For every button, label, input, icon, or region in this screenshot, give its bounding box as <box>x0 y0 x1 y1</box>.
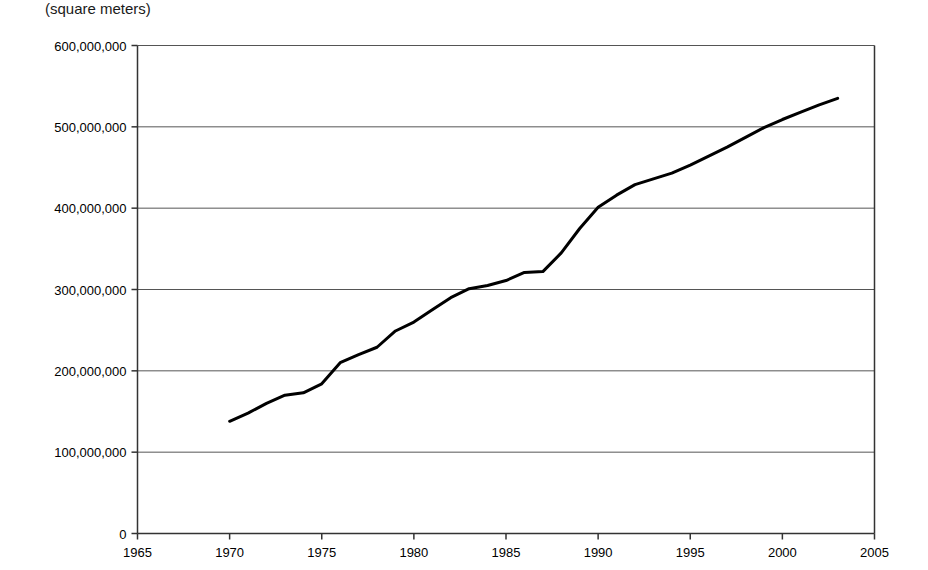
tick-marks-group <box>132 46 875 540</box>
x-tick-label: 2000 <box>752 546 812 559</box>
x-tick-label: 1975 <box>292 546 352 559</box>
x-tick-label: 1980 <box>384 546 444 559</box>
x-tick-label: 1970 <box>200 546 260 559</box>
x-tick-label: 1995 <box>660 546 720 559</box>
y-tick-label: 200,000,000 <box>54 365 126 378</box>
line-chart-plot <box>0 0 928 570</box>
x-tick-label: 1985 <box>476 546 536 559</box>
chart-container: (square meters) 0100,000,000200,000,0003… <box>0 0 928 570</box>
y-tick-label: 600,000,000 <box>54 40 126 53</box>
y-tick-label: 500,000,000 <box>54 121 126 134</box>
x-tick-label: 1990 <box>568 546 628 559</box>
data-series-line <box>230 98 838 421</box>
y-tick-label: 300,000,000 <box>54 284 126 297</box>
y-tick-label: 0 <box>119 528 126 541</box>
gridlines-group <box>138 46 875 453</box>
y-tick-label: 400,000,000 <box>54 202 126 215</box>
x-tick-label: 1965 <box>108 546 168 559</box>
x-tick-label: 2005 <box>845 546 905 559</box>
y-tick-label: 100,000,000 <box>54 446 126 459</box>
